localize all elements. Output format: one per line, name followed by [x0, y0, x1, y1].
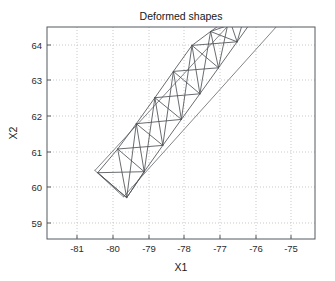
- y-axis-title: X2: [7, 126, 19, 139]
- y-tick-labels: 64 63 62 61 60 59: [31, 40, 42, 229]
- x-tick-label: -75: [284, 243, 298, 254]
- x-tick-label: -80: [106, 243, 120, 254]
- y-tick-label: 63: [31, 75, 42, 86]
- y-tick-label: 61: [31, 147, 42, 158]
- x-tick-label: -78: [177, 243, 191, 254]
- x-tick-label: -76: [249, 243, 263, 254]
- x-tick-labels: -81 -80 -79 -78 -77 -76 -75: [70, 243, 298, 254]
- y-tick-label: 59: [31, 218, 42, 229]
- x-tick-label: -81: [70, 243, 84, 254]
- page-title: Deformed shapes: [140, 10, 223, 22]
- y-tick-label: 62: [31, 111, 42, 122]
- y-tick-label: 64: [31, 40, 42, 51]
- x-tick-label: -79: [142, 243, 156, 254]
- deformed-shapes-chart: 64 63 62 61 60 59 -81 -80 -79 -78 -77 -7…: [0, 0, 335, 281]
- x-axis-title: X1: [175, 261, 188, 273]
- figure-container: 64 63 62 61 60 59 -81 -80 -79 -78 -77 -7…: [0, 0, 335, 281]
- y-tick-label: 60: [31, 182, 42, 193]
- x-tick-label: -77: [213, 243, 227, 254]
